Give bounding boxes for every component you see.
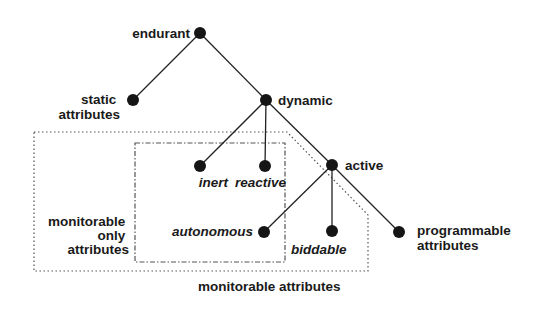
edge-dynamic-inert [200,100,266,166]
edge-dynamic-reactive [265,100,266,166]
label-reactive: reactive [235,175,287,190]
label-autonomous: autonomous [172,224,253,239]
node-biddable [326,225,338,237]
node-dynamic [260,94,272,106]
node-static [127,94,139,106]
label-monitorable-only-line3: attributes [67,242,129,257]
node-reactive [259,160,271,172]
label-programmable-line2: attributes [417,238,479,253]
label-programmable: programmable attributes [417,223,515,253]
node-endurant [194,27,206,39]
label-static: static attributes [58,92,120,122]
label-inert: inert [199,175,229,190]
label-monitorable-only-attributes: monitorable only attributes [48,214,129,257]
edge-endurant-dynamic [200,33,266,100]
node-active [326,159,338,171]
label-monitorable-only-line2: only [97,228,125,243]
label-active: active [345,158,384,173]
label-programmable-line1: programmable [417,223,511,238]
label-dynamic: dynamic [278,93,333,108]
label-monitorable-attributes: monitorable attributes [198,279,341,294]
label-static-line2: attributes [58,107,120,122]
edge-active-programmable [332,165,399,232]
tree-edges [133,33,399,232]
node-autonomous [258,226,270,238]
endurant-attribute-tree: endurant static attributes dynamic inert… [0,0,549,312]
label-monitorable-only-line1: monitorable [48,214,126,229]
edge-endurant-static [133,33,200,100]
label-biddable: biddable [291,242,347,257]
node-inert [194,160,206,172]
edge-dynamic-active [266,100,332,165]
node-programmable [393,226,405,238]
label-endurant: endurant [132,26,190,41]
label-static-line1: static [81,92,117,107]
